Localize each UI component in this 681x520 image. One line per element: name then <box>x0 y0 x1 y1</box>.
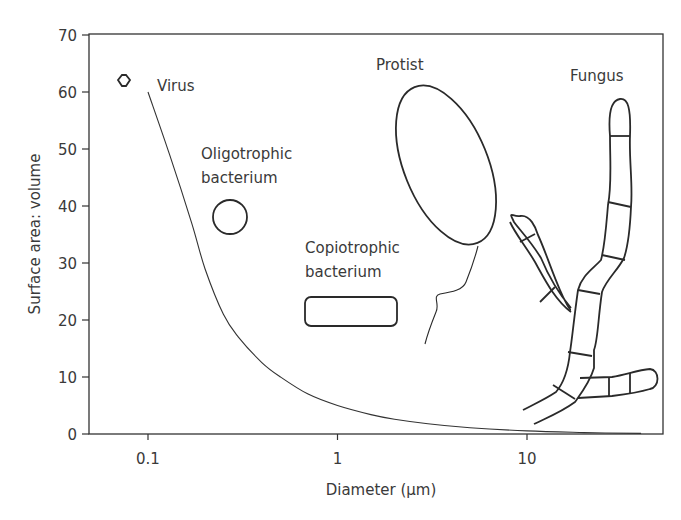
oligotrophic-bacterium-circle-icon <box>213 200 247 234</box>
x-axis: 0.1110 <box>136 434 536 468</box>
fungus-hyphae-icon <box>510 99 658 424</box>
x-tick-label: 10 <box>517 450 536 468</box>
y-tick-label: 30 <box>58 255 77 273</box>
y-tick-label: 40 <box>58 198 77 216</box>
copiotrophic-bacterium-rect-icon <box>305 297 397 326</box>
x-tick-label: 0.1 <box>136 450 160 468</box>
oligotrophic-label-line2: bacterium <box>201 169 278 187</box>
virus-label: Virus <box>157 77 195 95</box>
fungus-label: Fungus <box>570 67 624 85</box>
protist-cell-ellipse-icon <box>376 71 517 258</box>
y-tick-label: 0 <box>67 426 77 444</box>
sa-volume-curve <box>148 92 641 433</box>
y-tick-label: 60 <box>58 84 77 102</box>
x-axis-title: Diameter (μm) <box>326 481 437 499</box>
x-tick-label: 1 <box>333 450 343 468</box>
protist-flagellum-icon <box>425 246 478 344</box>
y-axis: 010203040506070 <box>58 27 89 444</box>
copiotrophic-label-line2: bacterium <box>305 263 382 281</box>
y-tick-label: 70 <box>58 27 77 45</box>
y-axis-title: Surface area: volume <box>26 154 44 315</box>
copiotrophic-label-line1: Copiotrophic <box>305 239 400 257</box>
virus-hexagon-icon <box>118 75 130 86</box>
y-tick-label: 10 <box>58 369 77 387</box>
oligotrophic-label-line1: Oligotrophic <box>201 145 292 163</box>
y-tick-label: 50 <box>58 141 77 159</box>
y-tick-label: 20 <box>58 312 77 330</box>
surface-area-volume-chart: 010203040506070 0.1110 Surface area: vol… <box>0 0 681 520</box>
protist-label: Protist <box>376 56 424 74</box>
